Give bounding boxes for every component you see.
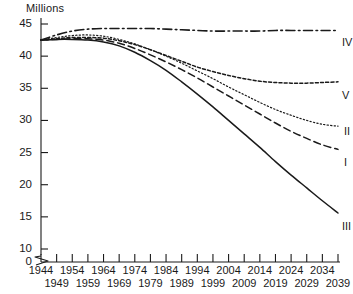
series-line-III: [41, 39, 338, 213]
y-tick-label: 15: [6, 210, 32, 222]
chart-series-group: [41, 28, 338, 213]
x-tick-label: 2039: [318, 277, 353, 289]
y-tick-label: 45: [6, 17, 32, 29]
y-tick-label: 40: [6, 49, 32, 61]
series-label-V: V: [342, 89, 349, 101]
x-tick-label: 2034: [302, 264, 342, 276]
series-label-IV: IV: [342, 36, 352, 48]
y-tick-label: 20: [6, 178, 32, 190]
y-tick-label: 35: [6, 81, 32, 93]
series-line-V: [41, 37, 338, 83]
chart-axes: [35, 18, 340, 265]
line-chart-plot: [0, 0, 353, 294]
y-tick-label: 30: [6, 113, 32, 125]
series-label-II: II: [344, 125, 350, 137]
y-tick-label: 25: [6, 146, 32, 158]
y-tick-label: 10: [6, 242, 32, 254]
series-label-I: I: [344, 156, 347, 168]
series-line-I: [41, 39, 338, 150]
series-line-II: [41, 35, 338, 126]
chart-figure: Millions 45403530252015100 1944195419641…: [0, 0, 353, 294]
series-label-III: III: [342, 220, 351, 232]
